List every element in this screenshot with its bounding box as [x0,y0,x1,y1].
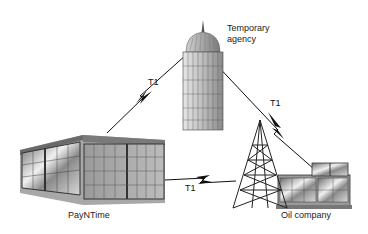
oil-derrick-factory-icon [233,120,352,209]
link-label-agency-oil: T1 [270,98,281,108]
label-temporary-agency-line2: agency [227,34,256,44]
link-label-paynTime-oil: T1 [185,183,196,193]
label-oil-company: Oil company [281,210,331,220]
link-paynTime-oil [165,175,236,184]
link-paynTime-agency [107,55,186,133]
link-label-paynTime-agency: T1 [148,77,159,87]
network-diagram: Temporary agency PayNTime Oil company T1… [0,0,368,234]
label-temporary-agency-line1: Temporary [227,23,270,33]
office-building-icon [20,135,165,205]
label-paynTime: PayNTime [68,210,110,220]
diagram-canvas [0,0,368,234]
tower-building-icon [183,20,223,130]
